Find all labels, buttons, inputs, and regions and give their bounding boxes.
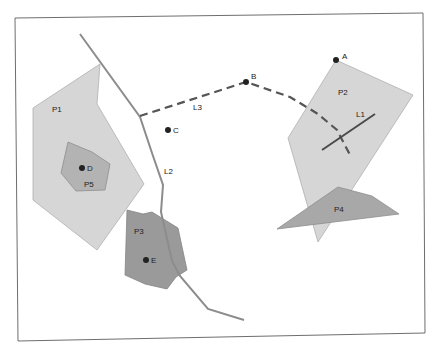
label-b: B (251, 72, 256, 81)
point-a (333, 57, 339, 63)
point-b (243, 79, 249, 85)
point-c (165, 127, 171, 133)
label-l2: L2 (164, 167, 173, 176)
spatial-diagram: P1 P2 P3 P4 P5 L1 L2 L3 A B C D E (0, 0, 438, 352)
label-l1: L1 (356, 110, 365, 119)
label-p3: P3 (134, 227, 144, 236)
point-d (79, 165, 85, 171)
label-l3: L3 (193, 103, 202, 112)
label-a: A (342, 52, 348, 61)
point-e (143, 257, 149, 263)
label-p2: P2 (338, 88, 348, 97)
label-d: D (87, 164, 93, 173)
label-p5: P5 (84, 180, 94, 189)
label-p4: P4 (334, 205, 344, 214)
label-c: C (173, 126, 179, 135)
label-e: E (151, 256, 156, 265)
label-p1: P1 (52, 105, 62, 114)
